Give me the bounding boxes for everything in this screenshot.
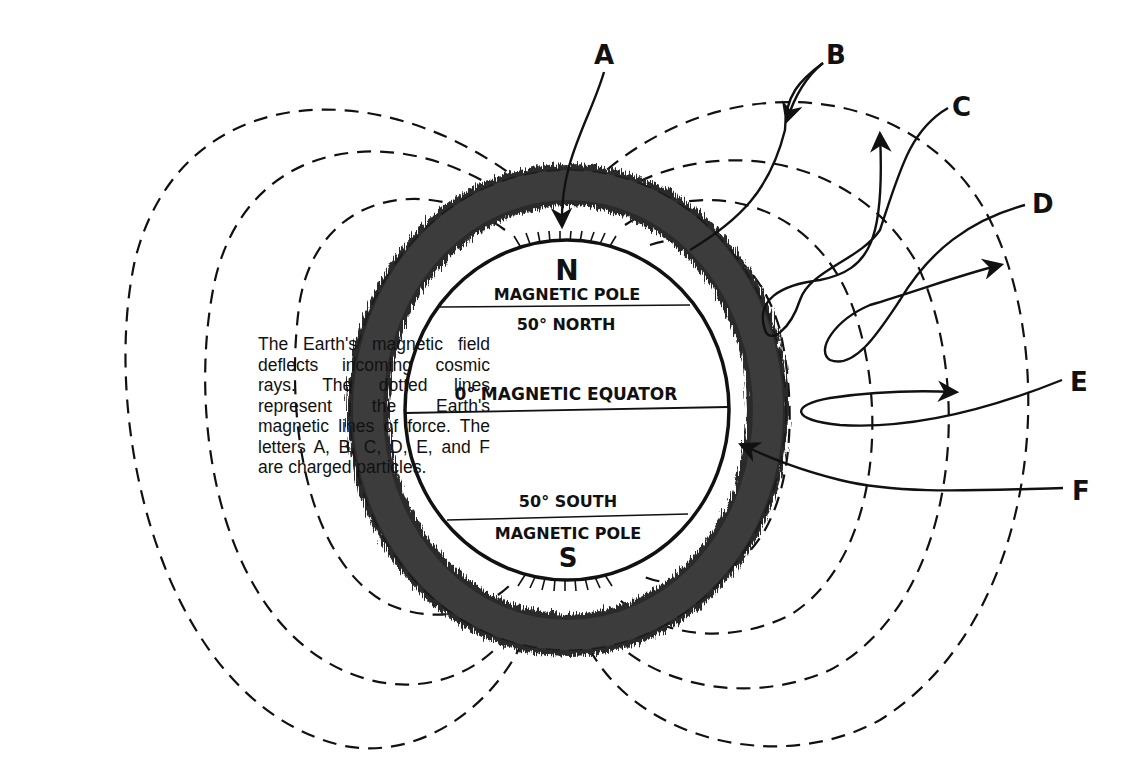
particle-c-path bbox=[763, 108, 948, 336]
particle-label-d: D bbox=[1032, 189, 1054, 219]
particle-f-path bbox=[742, 445, 1063, 490]
north-latitude-label: 50° NORTH bbox=[517, 315, 616, 334]
caption-text: The Earth's magnetic field deflects inco… bbox=[258, 334, 490, 478]
particle-label-c: C bbox=[952, 92, 971, 122]
south-latitude-label: 50° SOUTH bbox=[519, 492, 617, 511]
magnetosphere-diagram: A B C D E F N MAGNETIC POLE 50° NORTH 0°… bbox=[0, 0, 1141, 775]
particle-label-e: E bbox=[1070, 367, 1088, 397]
particle-label-b: B bbox=[826, 40, 846, 70]
north-letter: N bbox=[555, 254, 578, 287]
particle-label-f: F bbox=[1072, 476, 1090, 506]
south-letter: S bbox=[559, 543, 578, 573]
south-pole-label: MAGNETIC POLE bbox=[495, 524, 641, 543]
north-pole-label: MAGNETIC POLE bbox=[494, 285, 640, 304]
particle-e-path bbox=[801, 380, 1062, 426]
particle-label-a: A bbox=[594, 40, 614, 70]
particle-d-path bbox=[825, 205, 1025, 362]
